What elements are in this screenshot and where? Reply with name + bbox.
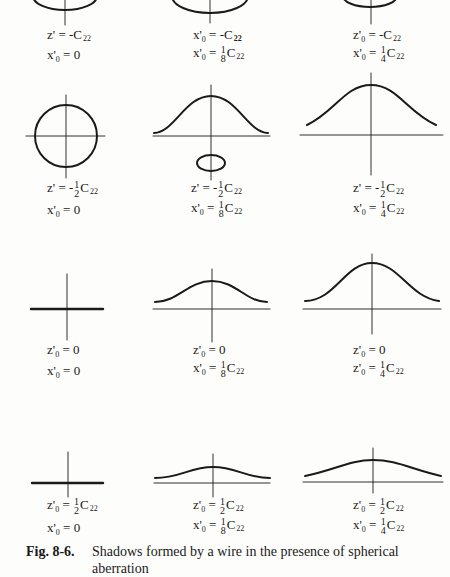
- panel-r1c2-drawing: [172, 0, 248, 23]
- panel-r2c2-drawing: [153, 85, 270, 180]
- panel-r3c3-drawing: [303, 254, 441, 334]
- figure-caption: Fig. 8-6.Shadows formed by a wire in the…: [26, 543, 436, 577]
- panel-r4c2-x-label: x'0 = 18C22: [193, 517, 244, 537]
- panel-r2c1-drawing: [26, 95, 105, 178]
- caption-line-1: Shadows formed by a wire in the presence…: [92, 544, 399, 559]
- panel-r1c2-x-label: x'0 = 18C22: [193, 45, 244, 65]
- panel-r1c3-x-label: x'0 = 14C22: [353, 45, 404, 65]
- panel-r2c2-x-label: x'0 = 18C22: [191, 200, 242, 220]
- panel-r3c2-drawing: [153, 269, 270, 342]
- figure-number: Fig. 8-6.: [26, 543, 92, 560]
- panel-r2c3-x-label: x'0 = 14C22: [353, 200, 404, 220]
- panel-r1c3-drawing: [343, 0, 397, 24]
- panel-r2c3-drawing: [300, 73, 443, 175]
- panel-r2c2-z-label: z' = -12C22: [191, 180, 242, 199]
- panel-r3c3-x-label: z'0 = 14C22: [353, 360, 404, 380]
- panel-r4c2-drawing: [154, 454, 270, 497]
- panel-r4c2-z-label: z'0 = 12C22: [193, 497, 244, 517]
- panel-r1c1-drawing: [33, 0, 97, 25]
- panel-r4c1-x-label: x'0 = 0: [47, 521, 80, 540]
- panel-r3c2-x-label: x'0 = 18C22: [193, 360, 244, 380]
- panel-r3c1-x-label: x'0 = 0: [47, 364, 80, 383]
- panel-r1c1-z-label: z' = -C22: [47, 28, 91, 46]
- panel-r4c1-z-label: z'0 = 12C22: [47, 497, 98, 517]
- panel-r4c1-drawing: [32, 452, 103, 497]
- panel-r2c1-x-label: x'0 = 0: [47, 203, 80, 222]
- panel-r4c3-z-label: z'0 = 12C22: [353, 497, 404, 517]
- panel-r4c3-x-label: x'0 = 14C22: [353, 517, 404, 537]
- panel-r1c1-x-label: x'0 = 0: [47, 48, 80, 67]
- panel-r4c3-drawing: [303, 448, 443, 493]
- panel-r2c3-z-label: z' = -12C22: [353, 180, 404, 199]
- panel-r3c1-z-label: z'0 = 0: [47, 343, 79, 362]
- caption-line-2: aberration: [26, 560, 436, 577]
- panel-r2c1-z-label: z' = -12C22: [47, 180, 98, 199]
- panel-r3c1-drawing: [31, 274, 103, 340]
